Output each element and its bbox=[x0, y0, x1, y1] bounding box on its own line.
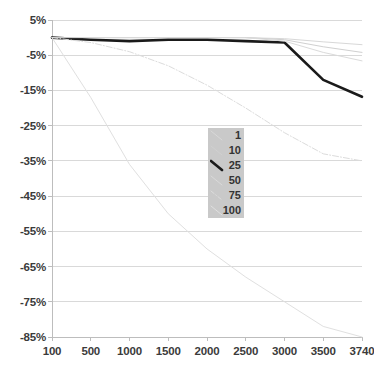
x-axis-tick-label: 3740 bbox=[350, 345, 374, 357]
y-axis-tick-label: -25% bbox=[0, 120, 46, 132]
legend-item-25[interactable]: 25 bbox=[208, 158, 244, 173]
x-axis-tick-label: 100 bbox=[43, 345, 62, 357]
y-axis-tick-label: -35% bbox=[0, 155, 46, 167]
legend-line-glyph bbox=[211, 161, 222, 170]
legend-line-glyph bbox=[211, 206, 222, 215]
legend-line-glyph bbox=[211, 191, 222, 200]
x-axis-tick-label: 1500 bbox=[156, 345, 181, 357]
legend-label: 1 bbox=[235, 128, 241, 143]
y-axis-tick-label: -65% bbox=[0, 261, 46, 273]
legend-label: 25 bbox=[229, 158, 241, 173]
y-axis-tick-label: -75% bbox=[0, 296, 46, 308]
legend-swatch-icon-25 bbox=[210, 158, 224, 173]
y-axis-tick-label: -45% bbox=[0, 190, 46, 202]
y-axis-tick-label: -5% bbox=[0, 49, 46, 61]
legend-line-glyph bbox=[211, 131, 222, 140]
legend-item-50[interactable]: 50 bbox=[208, 173, 244, 188]
series-line-100 bbox=[52, 38, 362, 337]
legend-label: 50 bbox=[229, 173, 241, 188]
legend-line-glyph bbox=[211, 146, 222, 155]
x-axis-tick-label: 500 bbox=[81, 345, 100, 357]
y-axis-tick-label: -85% bbox=[0, 331, 46, 343]
legend-swatch-icon-50 bbox=[210, 173, 224, 188]
x-axis-tick-label: 2000 bbox=[195, 345, 220, 357]
chart-plot-area bbox=[0, 0, 374, 368]
legend-item-75[interactable]: 75 bbox=[208, 188, 244, 203]
x-axis-tick-label: 3500 bbox=[311, 345, 336, 357]
legend-item-1[interactable]: 1 bbox=[208, 128, 244, 143]
legend-swatch-icon-1 bbox=[210, 128, 224, 143]
axis-lines bbox=[52, 20, 362, 337]
x-axis-tick-label: 1000 bbox=[117, 345, 142, 357]
legend-label: 75 bbox=[229, 188, 241, 203]
x-tick-marks bbox=[52, 337, 362, 341]
y-axis-tick-label: -15% bbox=[0, 84, 46, 96]
data-series-group bbox=[52, 38, 362, 337]
legend-swatch-icon-75 bbox=[210, 188, 224, 203]
legend-line-glyph bbox=[211, 176, 222, 185]
series-line-25 bbox=[52, 38, 362, 97]
y-axis-tick-label: -55% bbox=[0, 225, 46, 237]
legend-item-10[interactable]: 10 bbox=[208, 143, 244, 158]
legend-swatch-icon-10 bbox=[210, 143, 224, 158]
legend-label: 10 bbox=[229, 143, 241, 158]
y-tick-marks bbox=[48, 20, 52, 337]
x-axis-tick-label: 2500 bbox=[233, 345, 258, 357]
chart-legend[interactable]: 110255075100 bbox=[208, 128, 244, 218]
legend-item-100[interactable]: 100 bbox=[208, 203, 244, 218]
x-axis-tick-label: 3000 bbox=[272, 345, 297, 357]
y-axis-tick-label: 5% bbox=[0, 14, 46, 26]
chart-container: 5%-5%-15%-25%-35%-45%-55%-65%-75%-85% 10… bbox=[0, 0, 374, 368]
series-line-75 bbox=[52, 38, 362, 161]
legend-label: 100 bbox=[223, 203, 241, 218]
gridlines bbox=[52, 20, 362, 337]
